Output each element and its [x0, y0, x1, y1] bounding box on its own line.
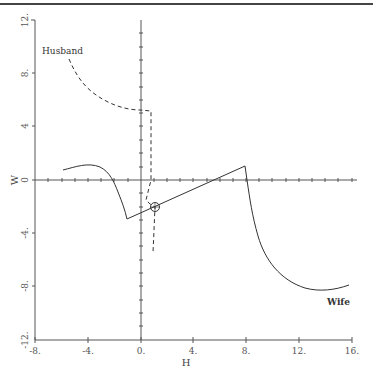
y-tick-label: -8. — [20, 280, 30, 292]
x-tick-label: -8. — [29, 346, 41, 356]
x-tick-label: 16. — [345, 346, 359, 356]
chart: Husband Wife -8. -4. 0. 4. 8. 12. 16. H … — [0, 0, 373, 375]
y-tick-label: 12. — [20, 13, 30, 27]
x-tick-label: 4. — [189, 346, 198, 356]
x-axis-title: H — [182, 357, 191, 368]
wife-label: Wife — [326, 297, 350, 307]
x-tick-label: -4. — [82, 346, 94, 356]
x-tick-label: 0. — [137, 346, 146, 356]
husband-curve — [69, 59, 155, 253]
x-tick-label: 12. — [292, 346, 306, 356]
y-tick-label: -4. — [20, 227, 30, 239]
x-tick-label: 8. — [242, 346, 251, 356]
y-tick-label: 8. — [20, 69, 30, 78]
y-tick-label: -12. — [20, 331, 30, 348]
y-tick-label: 4 — [20, 123, 30, 129]
y-axis-title: W — [9, 174, 20, 185]
husband-label: Husband — [42, 46, 83, 56]
wife-curve — [63, 165, 349, 290]
y-tick-label: 0 — [20, 177, 30, 183]
